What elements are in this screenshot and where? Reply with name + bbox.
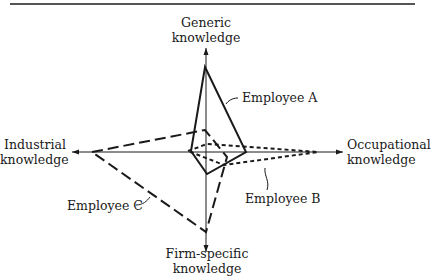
axis-label-occupational: Occupational knowledge <box>347 137 431 167</box>
axis-label-firm-specific-line2: knowledge <box>160 261 254 276</box>
axis-label-industrial-line2: knowledge <box>0 152 66 167</box>
axis-label-firm-specific-line1: Firm-specific <box>160 246 254 261</box>
employee-a-polygon <box>191 67 246 174</box>
employee-c-polygon <box>92 130 227 232</box>
employee-a-leader <box>226 98 238 104</box>
employee-a-label: Employee A <box>242 90 317 105</box>
axis-label-occupational-line2: knowledge <box>347 152 431 167</box>
employee-b-leader <box>265 168 268 190</box>
axis-label-generic-line1: Generic <box>170 15 242 30</box>
employee-c-label: Employee C <box>67 198 143 213</box>
employee-b-polygon <box>188 144 318 165</box>
employee-b-label: Employee B <box>245 191 321 206</box>
axis-label-industrial-line1: Industrial <box>0 137 66 152</box>
axis-label-generic: Generic knowledge <box>170 15 242 45</box>
axis-label-industrial: Industrial knowledge <box>0 137 66 167</box>
axis-label-generic-line2: knowledge <box>170 30 242 45</box>
axis-label-firm-specific: Firm-specific knowledge <box>160 246 254 276</box>
axis-label-occupational-line1: Occupational <box>347 137 431 152</box>
